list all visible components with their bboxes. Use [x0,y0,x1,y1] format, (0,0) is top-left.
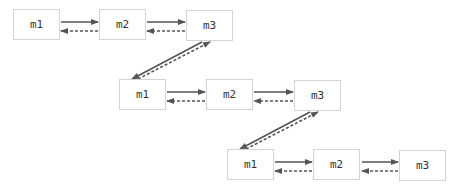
node-label: m3 [203,19,216,32]
node-label: m3 [311,89,324,102]
node-label: m1 [244,158,257,171]
node-row2-m1: m1 [119,79,166,110]
node-row3-m3: m3 [399,150,446,181]
node-label: m1 [136,88,149,101]
edge-r2m2-r2m3 [254,92,293,101]
edge-r1m3-r2m1 [132,42,210,79]
node-row3-m1: m1 [227,149,274,180]
node-row1-m2: m2 [99,9,146,40]
node-row1-m1: m1 [13,9,60,40]
diagram-canvas: m1 m2 m3 m1 m2 m3 m1 m2 m3 [0,0,459,192]
node-row1-m3: m3 [186,10,233,41]
node-label: m2 [223,88,236,101]
edge-r3m2-r3m3 [362,162,398,171]
edge-r1m1-r1m2 [61,22,98,31]
edge-r3m1-r3m2 [275,162,312,171]
node-label: m2 [330,158,343,171]
node-row3-m2: m2 [313,149,360,180]
node-label: m1 [30,18,43,31]
edge-r1m2-r1m3 [147,22,185,31]
edge-r2m1-r2m2 [167,92,205,101]
node-row2-m3: m3 [294,80,341,111]
node-label: m3 [416,159,429,172]
node-row2-m2: m2 [206,79,253,110]
node-label: m2 [116,18,129,31]
edge-r2m3-r3m1 [240,112,318,149]
